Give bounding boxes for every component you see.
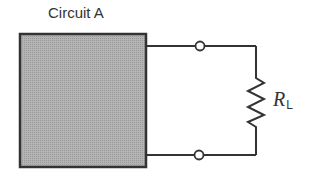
circuit-diagram <box>0 0 315 181</box>
resistor-subscript: L <box>286 98 293 112</box>
top-terminal <box>196 42 205 51</box>
resistor-symbol: R <box>273 88 285 110</box>
circuit-a-block <box>20 34 146 167</box>
resistor-label: RL <box>273 88 293 112</box>
bottom-terminal <box>195 151 204 160</box>
resistor-rl <box>248 46 264 155</box>
